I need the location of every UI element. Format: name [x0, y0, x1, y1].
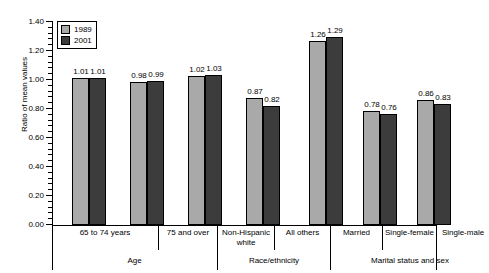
bar-1989	[72, 78, 89, 225]
category-label-65-to-74-years: 65 to 74 years	[52, 226, 158, 250]
y-axis-major-tick	[46, 137, 52, 138]
y-axis-major-tick	[46, 50, 52, 51]
bar-group-single-female: 0.78 0.76	[363, 21, 397, 225]
y-axis-minor-tick	[48, 154, 52, 155]
bar-2001	[380, 114, 397, 225]
y-axis-minor-tick	[48, 189, 52, 190]
y-tick-label: 1.00	[14, 76, 44, 84]
bar-1989	[246, 98, 263, 225]
y-axis-major-tick	[46, 21, 52, 22]
y-axis-minor-tick	[48, 114, 52, 115]
y-axis-minor-tick	[48, 62, 52, 63]
bar-group-non-hispanic-white: 1.02 1.03	[188, 21, 222, 225]
bar-1989	[309, 41, 326, 225]
group-label-row: Age Race/ethnicity Marital status and se…	[52, 250, 437, 270]
y-axis-minor-tick	[48, 27, 52, 28]
bar-value-2001: 0.76	[377, 104, 401, 112]
category-label-married: Married	[331, 226, 382, 250]
y-axis-minor-tick	[48, 33, 52, 34]
group-label-race-ethnicity: Race/ethnicity	[218, 250, 330, 270]
category-label-all-others: All others	[275, 226, 330, 250]
group-label-age: Age	[52, 250, 217, 270]
y-axis-minor-tick	[48, 183, 52, 184]
bar-group-single-male: 0.86 0.83	[417, 21, 451, 225]
bar-value-2001: 1.03	[202, 65, 226, 73]
y-tick-label: 0.80	[14, 105, 44, 113]
y-axis-minor-tick	[48, 143, 52, 144]
y-axis-major-tick	[46, 224, 52, 225]
bar-2001	[434, 104, 451, 225]
bar-2001	[147, 81, 164, 225]
y-axis-minor-tick	[48, 56, 52, 57]
y-axis-tick-labels: 1.40 1.20 1.00 0.80 0.60 0.40 0.20 0.00	[12, 0, 44, 273]
y-axis-minor-tick	[48, 85, 52, 86]
y-tick-label: 1.20	[14, 47, 44, 55]
y-axis-minor-tick	[48, 125, 52, 126]
bar-value-2001: 0.83	[431, 94, 455, 102]
y-axis-minor-tick	[48, 160, 52, 161]
y-tick-label: 0.40	[14, 163, 44, 171]
bar-group-all-others: 0.87 0.82	[246, 21, 280, 225]
y-axis-minor-tick	[48, 212, 52, 213]
category-label-single-female: Single-female	[383, 226, 436, 250]
bar-value-2001: 1.29	[323, 27, 347, 35]
y-axis-minor-tick	[48, 207, 52, 208]
bar-2001	[89, 78, 106, 225]
y-axis-minor-tick	[48, 67, 52, 68]
y-axis-major-tick	[46, 108, 52, 109]
bar-value-2001: 0.82	[260, 96, 284, 104]
y-axis-minor-tick	[48, 102, 52, 103]
category-label-row: 65 to 74 years 75 and over Non-Hispanic …	[52, 226, 437, 250]
y-tick-label: 0.60	[14, 134, 44, 142]
bar-2001	[326, 37, 343, 225]
category-label-75-and-over: 75 and over	[159, 226, 217, 250]
y-axis-minor-tick	[48, 73, 52, 74]
y-axis-minor-tick	[48, 218, 52, 219]
plot-area: 1.01 1.01 0.98 0.99 1.02 1.03 0.87 0.82 …	[53, 21, 437, 225]
y-axis-major-tick	[46, 166, 52, 167]
y-axis-minor-tick	[48, 172, 52, 173]
bar-2001	[205, 75, 222, 225]
y-axis-minor-tick	[48, 149, 52, 150]
y-axis-minor-tick	[48, 120, 52, 121]
y-tick-label: 0.20	[14, 192, 44, 200]
bar-group-75-and-over: 0.98 0.99	[130, 21, 164, 225]
y-axis-minor-tick	[48, 96, 52, 97]
bar-1989	[130, 82, 147, 225]
y-tick-label: 1.40	[14, 18, 44, 26]
bar-value-2001: 1.01	[86, 68, 110, 76]
category-label-single-male: Single-male	[437, 226, 489, 250]
y-axis-minor-tick	[48, 178, 52, 179]
y-axis-minor-tick	[48, 44, 52, 45]
bar-group-married: 1.26 1.29	[309, 21, 343, 225]
y-axis-minor-tick	[48, 201, 52, 202]
bar-group-65-to-74-years: 1.01 1.01	[72, 21, 106, 225]
y-axis-major-tick	[46, 79, 52, 80]
bar-value-2001: 0.99	[144, 71, 168, 79]
group-label-marital-status-sex: Marital status and sex	[331, 250, 489, 270]
category-label-non-hispanic-white: Non-Hispanic white	[218, 226, 274, 250]
bar-1989	[188, 76, 205, 225]
bar-1989	[363, 111, 380, 225]
y-axis-minor-tick	[48, 38, 52, 39]
bar-2001	[263, 106, 280, 225]
y-axis-minor-tick	[48, 131, 52, 132]
y-axis-major-tick	[46, 195, 52, 196]
y-axis-minor-tick	[48, 91, 52, 92]
bar-1989	[417, 100, 434, 225]
y-tick-label: 0.00	[14, 221, 44, 229]
